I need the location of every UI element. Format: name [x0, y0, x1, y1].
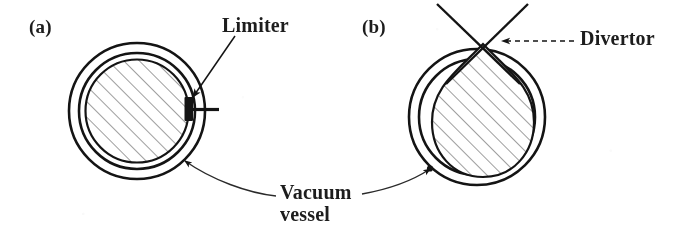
vacuum-vessel-label-line2: vessel — [280, 203, 330, 225]
vacuum-vessel-label-line1: Vacuum — [280, 181, 352, 203]
divertor-label: Divertor — [580, 27, 655, 49]
vacuum-vessel-leader-right-tip — [427, 165, 433, 171]
panel-a-plasma-region — [86, 60, 189, 163]
panel-label-a: (a) — [29, 16, 52, 37]
limiter-label: Limiter — [222, 14, 289, 36]
panel-b-drawing — [362, 4, 574, 194]
limiter-leader-line — [193, 36, 235, 97]
figure-tokamak-cross-sections: (a) (b) Limiter Divertor Vacuum vessel — [0, 0, 694, 243]
panel-label-b: (b) — [362, 16, 386, 37]
vacuum-vessel-leader-left — [185, 161, 276, 196]
vacuum-vessel-leader-right — [362, 169, 430, 194]
panel-a-drawing — [69, 36, 276, 196]
limiter-structure — [185, 97, 220, 121]
